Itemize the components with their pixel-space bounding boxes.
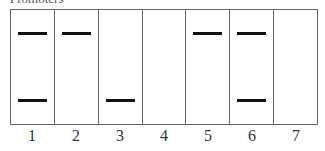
lane-label: 3 [98, 127, 142, 145]
band-top [62, 32, 91, 35]
band-top [18, 32, 47, 35]
lane-label: 6 [230, 127, 274, 145]
band-top [193, 32, 222, 35]
lane-label: 2 [54, 127, 98, 145]
band-top [237, 32, 266, 35]
gel-diagram [10, 9, 318, 125]
band-bottom [106, 99, 135, 102]
lane-1 [11, 10, 55, 124]
band-bottom [18, 99, 47, 102]
lane-6 [230, 10, 274, 124]
lane-5 [186, 10, 230, 124]
lane-2 [55, 10, 99, 124]
lane-label: 4 [142, 127, 186, 145]
lane-label: 5 [186, 127, 230, 145]
lane-label: 1 [10, 127, 54, 145]
lane-7 [274, 10, 317, 124]
lane-4 [143, 10, 187, 124]
band-bottom [237, 99, 266, 102]
partial-title: Promoters [10, 0, 63, 7]
lane-labels: 1 2 3 4 5 6 7 [10, 127, 318, 145]
lane-label: 7 [274, 127, 318, 145]
lane-3 [99, 10, 143, 124]
